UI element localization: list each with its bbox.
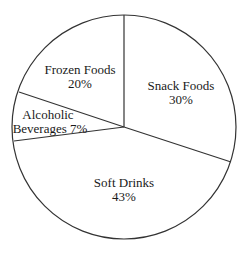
label-name: Snack Foods: [148, 78, 215, 93]
label-name-line2: Beverages 7%: [13, 121, 88, 136]
label-name-line1: Alcoholic: [22, 107, 73, 122]
label-percent: 30%: [169, 92, 193, 107]
pie-chart: Frozen Foods 20% Snack Foods 30% Soft Dr…: [0, 0, 247, 254]
label-percent: 43%: [112, 189, 136, 204]
label-name: Soft Drinks: [94, 175, 154, 190]
label-percent: 20%: [68, 76, 92, 91]
label-name: Frozen Foods: [44, 62, 115, 77]
